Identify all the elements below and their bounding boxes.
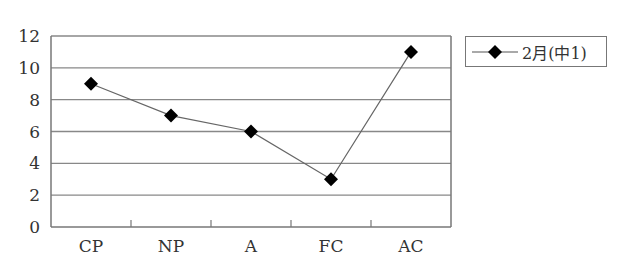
- x-axis: CPNPAFCAC: [51, 220, 451, 256]
- diamond-marker-icon: [164, 109, 178, 123]
- y-tick-label: 0: [29, 217, 40, 237]
- y-tick-label: 8: [29, 90, 40, 110]
- y-tick-label: 2: [29, 185, 40, 205]
- y-tick-label: 10: [18, 58, 40, 78]
- gridlines: [51, 36, 451, 195]
- legend-label: 2月(中1): [522, 40, 587, 64]
- legend: 2月(中1): [465, 36, 607, 67]
- y-tick-label: 4: [29, 153, 40, 173]
- x-tick-label: FC: [319, 236, 344, 256]
- diamond-marker-icon: [404, 45, 418, 59]
- x-tick-label: NP: [158, 236, 184, 256]
- x-tick-label: AC: [397, 236, 423, 256]
- diamond-marker-icon: [84, 77, 98, 91]
- x-tick-label: A: [244, 236, 258, 256]
- y-tick-label: 6: [29, 122, 40, 142]
- legend-diamond-marker-icon: [472, 44, 518, 60]
- x-tick-label: CP: [79, 236, 103, 256]
- diamond-marker-icon: [244, 125, 258, 139]
- y-tick-label: 12: [18, 26, 40, 46]
- data-series: [84, 45, 418, 186]
- series-line: [91, 52, 411, 179]
- diamond-marker-icon: [324, 172, 338, 186]
